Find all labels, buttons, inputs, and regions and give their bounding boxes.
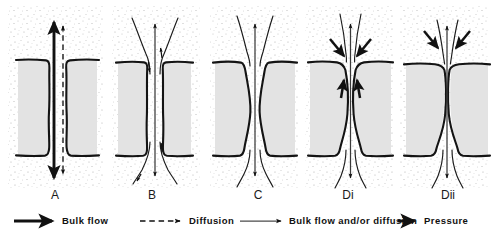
panel-label-Di: Di: [342, 188, 353, 202]
panel-B-cell-left: [118, 62, 148, 156]
legend-label-diffusion: Diffusion: [189, 215, 234, 226]
panel-B-cell-right: [161, 62, 191, 156]
transport-pathways-diagram: A B C Di Dii Bulk flow Diffusion Bulk fl…: [0, 0, 494, 236]
panel-label-Dii: Dii: [441, 188, 455, 202]
figure-container: A B C Di Dii Bulk flow Diffusion Bulk fl…: [0, 0, 494, 236]
panel-label-B: B: [148, 188, 156, 202]
panel-label-C: C: [254, 188, 263, 202]
legend-label-pressure: Pressure: [424, 215, 468, 226]
panel-label-A: A: [51, 188, 59, 202]
panel-A-cell-left: [18, 60, 50, 156]
legend-label-bulk-flow: Bulk flow: [62, 215, 108, 226]
panel-A-cell-right: [65, 60, 97, 156]
